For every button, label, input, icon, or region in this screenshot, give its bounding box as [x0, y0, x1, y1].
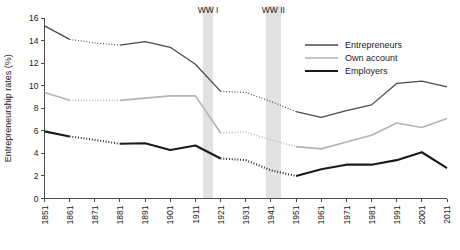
series-line-solid [296, 152, 447, 176]
y-tick-label: 10 [29, 81, 39, 91]
x-tick-label: 1941 [266, 205, 276, 224]
x-tick-label: 1911 [191, 205, 201, 224]
series-line-solid [296, 118, 447, 148]
x-tick-label: 1961 [316, 205, 326, 224]
annotation-bands: WW IWW II [198, 5, 285, 199]
y-axis-title: Entrepreneurship rates (%) [3, 54, 13, 162]
y-tick-label: 14 [29, 36, 39, 46]
series-line-solid [45, 131, 70, 136]
x-tick-label: 1901 [165, 205, 175, 224]
series-line-solid [45, 26, 70, 40]
x-axis-ticks: 1851186118711881189119011911192119311941… [40, 199, 453, 225]
x-tick-label: 1951 [291, 205, 301, 224]
x-tick-label: 1981 [367, 205, 377, 224]
legend-label-employers: Employers [345, 66, 388, 76]
annotation-band-ww-ii [266, 6, 281, 199]
y-tick-label: 8 [34, 103, 39, 113]
y-tick-label: 0 [34, 194, 39, 204]
y-tick-label: 4 [34, 148, 39, 158]
legend-item-entrepreneurs[interactable]: Entrepreneurs [305, 40, 403, 50]
legend-label-own-account: Own account [345, 53, 398, 63]
chart-canvas: WW IWW II0246810121416185118611871188118… [0, 0, 460, 250]
x-tick-label: 1861 [65, 205, 75, 224]
series-line-dotted [70, 39, 120, 45]
series-line-solid [45, 92, 70, 100]
y-tick-label: 16 [29, 13, 39, 23]
series-line-dotted [221, 91, 296, 111]
y-tick-label: 6 [34, 126, 39, 136]
x-tick-label: 1851 [40, 205, 50, 224]
series-line-dotted [70, 136, 120, 143]
y-axis-ticks: 0246810121416 [29, 13, 44, 204]
annotation-band-ww-i [203, 6, 213, 199]
series-line-dotted [221, 158, 296, 175]
x-tick-label: 1991 [392, 205, 402, 224]
series-line-dotted [221, 132, 296, 147]
x-tick-label: 1891 [140, 205, 150, 224]
series-own-account [45, 92, 448, 148]
annotation-label-ww-ii: WW II [262, 5, 285, 15]
series-line-solid [296, 81, 447, 117]
x-tick-label: 2011 [442, 205, 452, 224]
x-tick-label: 1931 [241, 205, 251, 224]
y-tick-label: 12 [29, 58, 39, 68]
legend: EntrepreneursOwn accountEmployers [305, 40, 403, 76]
legend-label-entrepreneurs: Entrepreneurs [345, 40, 403, 50]
series-employers [45, 131, 448, 176]
entrepreneurship-rates-chart: WW IWW II0246810121416185118611871188118… [0, 0, 460, 250]
x-tick-label: 1921 [216, 205, 226, 224]
x-tick-label: 1881 [115, 205, 125, 224]
x-tick-label: 2001 [417, 205, 427, 224]
y-tick-label: 2 [34, 171, 39, 181]
legend-item-own-account[interactable]: Own account [305, 53, 398, 63]
x-tick-label: 1871 [90, 205, 100, 224]
x-tick-label: 1971 [342, 205, 352, 224]
annotation-label-ww-i: WW I [198, 5, 219, 15]
legend-item-employers[interactable]: Employers [305, 66, 388, 76]
